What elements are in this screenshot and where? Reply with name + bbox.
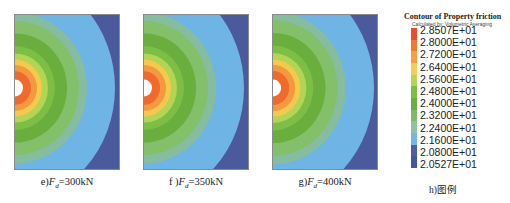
colorbar-segment: [411, 145, 417, 157]
contour-plot-f: [143, 14, 249, 170]
colorbar-segment: [411, 133, 417, 145]
legend-value: 2.7200E+01: [420, 48, 477, 60]
legend-value: 2.4800E+01: [420, 85, 477, 97]
legend-value: 2.0527E+01: [420, 158, 477, 170]
legend-value-labels: 2.8507E+012.8000E+012.7200E+012.6400E+01…: [420, 24, 477, 170]
colorbar-segment: [411, 121, 417, 133]
panel-caption-g: g)Fd=400kN: [298, 176, 351, 190]
legend-value: 2.8000E+01: [420, 36, 477, 48]
contour-plot-g: [272, 14, 378, 170]
legend-value: 2.0800E+01: [420, 146, 477, 158]
colorbar-segment: [411, 156, 417, 168]
contour-plot-e: [14, 14, 120, 170]
colorbar-segment: [411, 63, 417, 75]
legend-colorbar: [411, 28, 417, 168]
legend-value: 2.1600E+01: [420, 134, 477, 146]
colorbar-segment: [411, 40, 417, 52]
legend-value: 2.4000E+01: [420, 97, 477, 109]
colorbar-segment: [411, 98, 417, 110]
legend-title: Contour of Property friction: [404, 12, 501, 21]
legend-value: 2.5600E+01: [420, 73, 477, 85]
colorbar-segment: [411, 110, 417, 122]
legend-value: 2.6400E+01: [420, 61, 477, 73]
colorbar-segment: [411, 86, 417, 98]
legend-caption: h)图例: [429, 182, 457, 196]
legend-value: 2.3200E+01: [420, 109, 477, 121]
colorbar-segment: [411, 51, 417, 63]
panel-caption-e: e)Fd=300kN: [41, 176, 94, 190]
legend-value: 2.2400E+01: [420, 122, 477, 134]
colorbar-segment: [411, 75, 417, 87]
legend-value: 2.8507E+01: [420, 24, 477, 36]
colorbar-segment: [411, 28, 417, 40]
panel-caption-f: f )Fd=350kN: [169, 176, 223, 190]
